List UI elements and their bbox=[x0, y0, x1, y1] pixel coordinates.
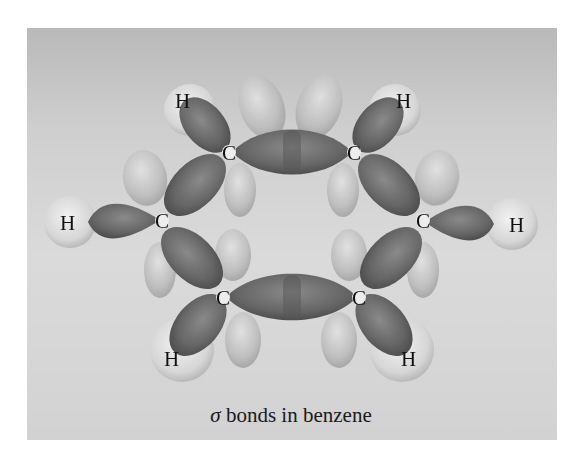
carbon-label-c5: C bbox=[216, 286, 230, 310]
benzene-sigma-bond-diagram: C C C C C C H H H H H H bbox=[0, 0, 582, 460]
caption-text: bonds in benzene bbox=[221, 403, 372, 427]
carbon-label-c4: C bbox=[416, 209, 430, 233]
carbon-label-c1: C bbox=[222, 141, 236, 165]
figure-caption: σ bonds in benzene bbox=[0, 403, 582, 428]
c-h-bond-orbitals bbox=[88, 88, 494, 367]
c-c-bond-orbitals bbox=[150, 130, 434, 321]
hydrogen-label-h5: H bbox=[164, 347, 179, 371]
hydrogen-label-h3: H bbox=[60, 211, 75, 235]
carbon-label-c2: C bbox=[347, 141, 361, 165]
carbon-label-c3: C bbox=[155, 209, 169, 233]
hydrogen-label-h1: H bbox=[175, 89, 190, 113]
hydrogen-label-h6: H bbox=[401, 347, 416, 371]
hydrogen-label-h2: H bbox=[396, 89, 411, 113]
carbon-label-c6: C bbox=[352, 286, 366, 310]
hydrogen-label-h4: H bbox=[509, 213, 524, 237]
sigma-symbol: σ bbox=[210, 403, 220, 427]
